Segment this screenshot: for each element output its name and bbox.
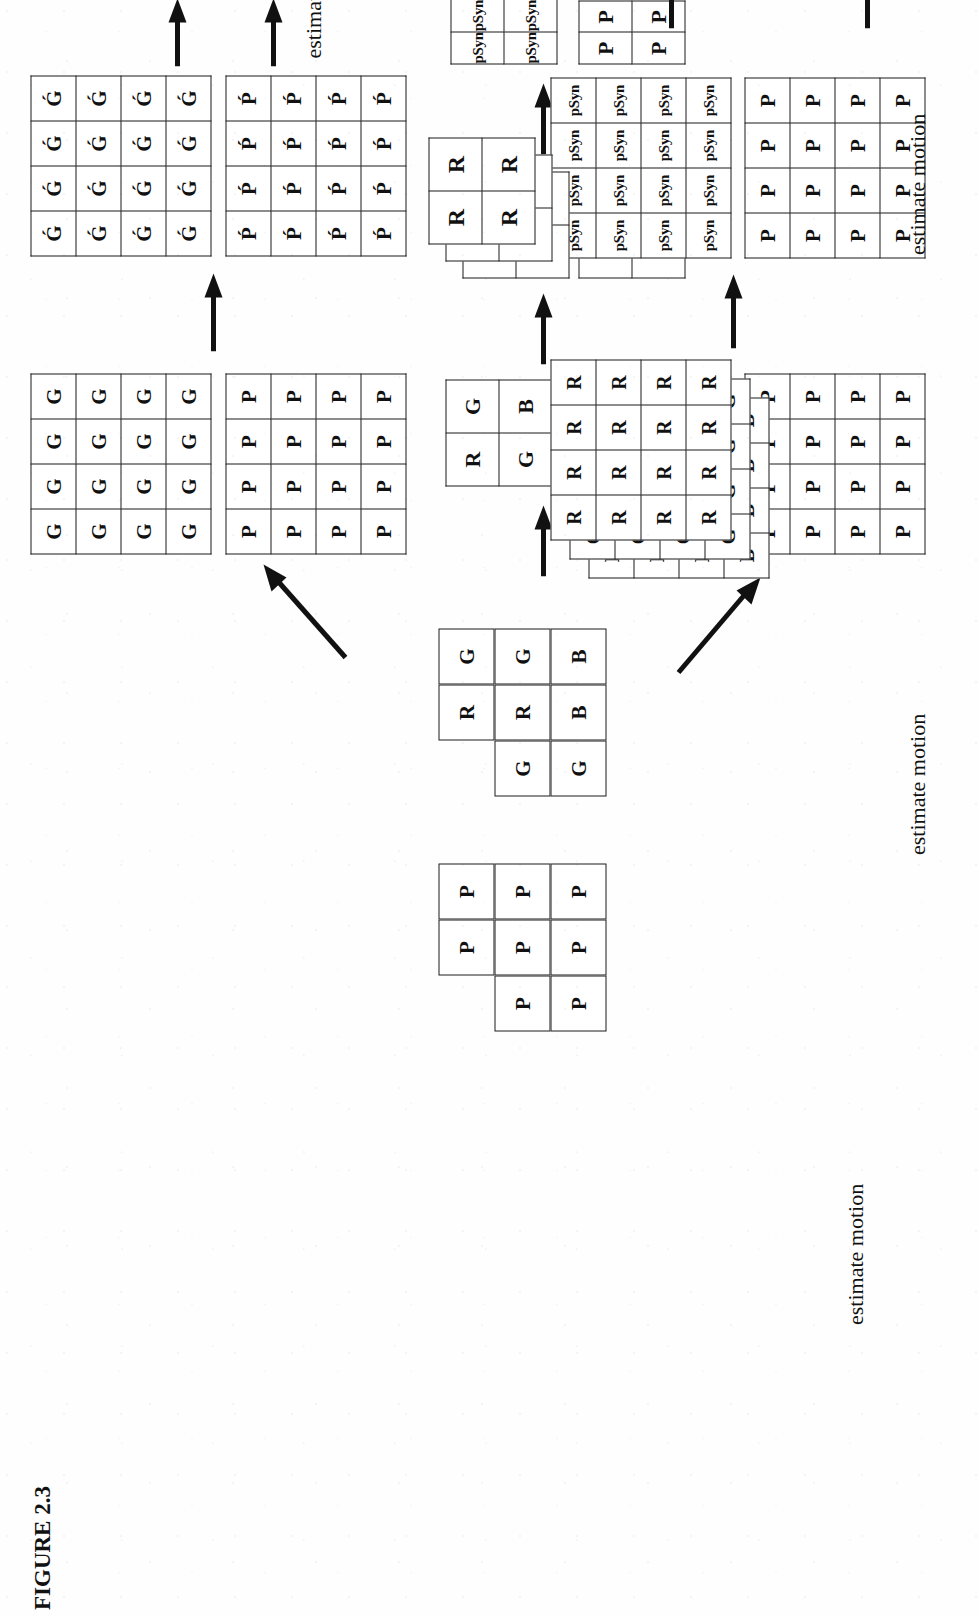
grid-cell: R: [596, 405, 641, 450]
estimate-motion-label-1: estimate motion: [905, 114, 931, 255]
grid-cell: R: [641, 495, 686, 540]
arrow-p-out-estimate-motion: [856, 0, 878, 28]
grid-cell: R: [686, 405, 731, 450]
table-row: RRRR: [596, 360, 641, 540]
table-row: RRRR: [641, 360, 686, 540]
grid-cell: R: [641, 360, 686, 405]
grid-cell: R: [551, 450, 596, 495]
rgb-stack-4x4: BBBBBBBBBBBBBBBBGGGGGGGGGGGGGGGGRRRRRRRR…: [550, 348, 780, 578]
grid-cell: R: [551, 360, 596, 405]
grid-cell: R: [482, 138, 535, 191]
arrow-psyn-4x4-estimate-motion: [660, 0, 682, 28]
grid-cell: R: [551, 495, 596, 540]
stack-plane-R: RRRR: [428, 137, 535, 244]
grid-cell: R: [596, 360, 641, 405]
grid-cell: R: [686, 495, 731, 540]
figure-caption: FIGURE 2.3: [30, 1486, 56, 1610]
grid-cell: R: [686, 450, 731, 495]
grid-cell: R: [429, 191, 482, 244]
table-row: RR: [482, 138, 535, 244]
stack-plane-R: RRRRRRRRRRRRRRRR: [550, 359, 731, 540]
table-row: RRRR: [686, 360, 731, 540]
grid-cell: R: [641, 405, 686, 450]
figure-stage: GGGGGGGGGGGGGGGG PPPPPPPPPPPPPPPP: [0, 0, 979, 1616]
grid-cell: R: [596, 495, 641, 540]
table-row: RR: [429, 138, 482, 244]
grid-cell: R: [596, 450, 641, 495]
grid-cell: R: [482, 191, 535, 244]
estimate-motion-label-3: estimate motion: [843, 1184, 869, 1325]
estimate-motion-label-2: estimate motion: [905, 714, 931, 855]
grid-cell: R: [686, 360, 731, 405]
grid-R: RRRRRRRRRRRRRRRR: [550, 359, 731, 540]
grid-cell: R: [429, 138, 482, 191]
figure-page: GGGGGGGGGGGGGGGG PPPPPPPPPPPPPPPP: [0, 0, 979, 1616]
grid-cell: R: [641, 450, 686, 495]
grid-cell: R: [551, 405, 596, 450]
table-row: RRRR: [551, 360, 596, 540]
grid-R: RRRR: [428, 137, 535, 244]
